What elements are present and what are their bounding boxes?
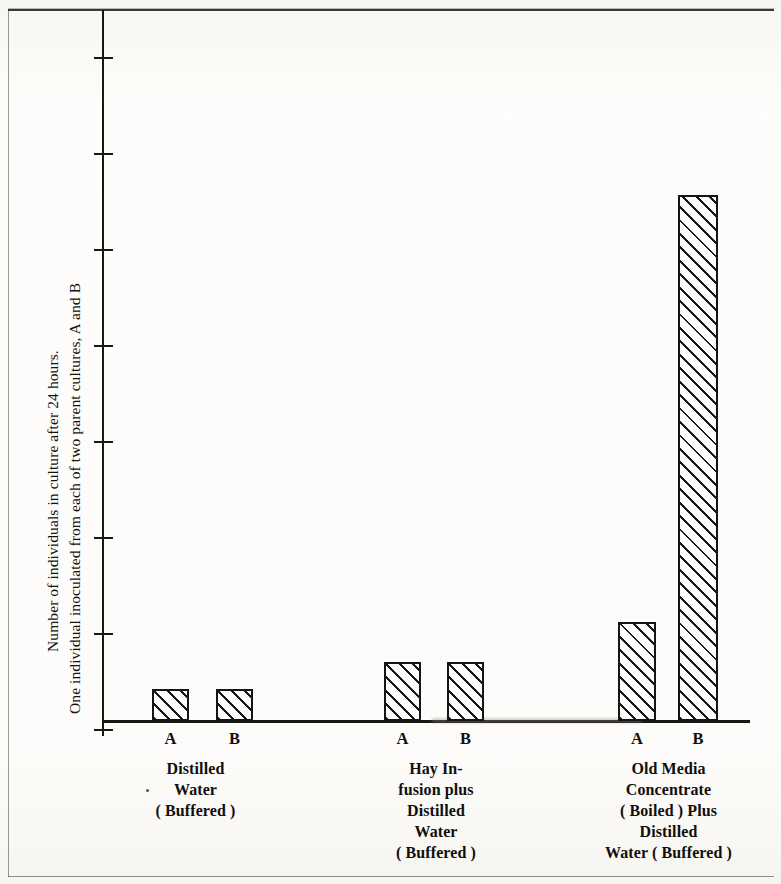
group-caption-line: Water ( Buffered ) [566,842,771,863]
bar-letter-label-old-media-concentrate-a: A [620,729,654,749]
bar-old-media-concentrate-b [678,195,718,721]
group-caption-line: Distilled [118,758,273,779]
y-axis-tick [94,345,113,347]
y-axis-tick [94,633,113,635]
group-caption-line: Distilled [566,821,771,842]
group-caption-line: fusion plus [350,779,522,800]
plot-area: ABABAB DistilledWater( Buffered )Hay In-… [0,0,781,884]
group-caption-line: ( Boiled ) Plus [566,800,771,821]
figure-root: Number of individuals in culture after 2… [0,0,781,884]
group-caption-old-media-concentrate: Old MediaConcentrate( Boiled ) PlusDisti… [566,758,771,864]
bar-hay-infusion-a [384,662,421,721]
y-axis-tick [94,249,113,251]
bar-hay-infusion-b [447,662,484,721]
group-caption-hay-infusion: Hay In-fusion plusDistilledWater( Buffer… [350,758,522,864]
group-caption-line: ( Buffered ) [118,800,273,821]
y-axis-tick [94,57,113,59]
group-caption-line: Concentrate [566,779,771,800]
y-axis-tick [94,537,113,539]
y-axis-tick [94,441,113,443]
group-caption-line: ( Buffered ) [350,842,522,863]
group-caption-line: Water [350,821,522,842]
bar-letter-label-distilled-water-b: B [218,729,252,749]
group-caption-line: Hay In- [350,758,522,779]
bar-old-media-concentrate-a [618,622,656,721]
y-axis-line [102,10,104,736]
bar-distilled-water-a [152,689,189,721]
bar-letter-label-old-media-concentrate-b: B [681,729,715,749]
group-caption-line: Distilled [350,800,522,821]
y-axis-tick [94,729,113,731]
group-caption-distilled-water: DistilledWater( Buffered ) [118,758,273,821]
ink-speck [146,789,149,792]
y-axis-tick [94,153,113,155]
bar-letter-label-hay-infusion-b: B [449,729,483,749]
group-caption-line: Water [118,779,273,800]
group-caption-line: Old Media [566,758,771,779]
bar-distilled-water-b [216,689,253,721]
bar-letter-label-hay-infusion-a: A [386,729,420,749]
bar-letter-label-distilled-water-a: A [154,729,188,749]
